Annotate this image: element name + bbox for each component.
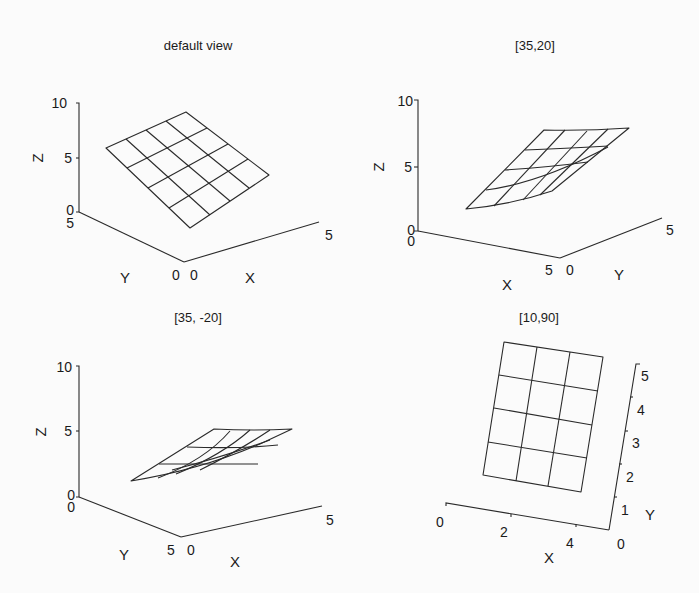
y-tick-label: 0 [172,267,180,283]
z-tick-label: 5 [64,423,72,439]
subplot-35-20: [35,20] 10 5 0 0 5 0 5 X Y Z [370,38,674,293]
x-tick-label: 4 [566,535,574,551]
z-tick-label: 10 [397,93,413,109]
x-tick-label: 0 [407,233,415,249]
y-tick-label: 5 [167,542,175,558]
z-axis-label: Z [32,427,49,436]
x-axis [184,222,319,262]
y-axis-label: Y [614,266,624,283]
x-tick-label: 2 [500,524,508,540]
subplot-title: [35,20] [515,38,555,53]
x-axis [181,506,322,537]
x-tick-label: 0 [190,267,198,283]
y-tick-label: 4 [637,402,645,418]
subplot-default-view: default view 10 5 0 5 0 0 5 Y X Z [29,38,333,286]
x-axis [418,231,560,258]
y-axis [79,497,181,537]
x-axis-label: X [230,553,240,570]
z-tick-label: 10 [56,359,72,375]
x-tick-label: 5 [545,262,553,278]
y-tick-label: 3 [632,435,640,451]
y-tick-label: 2 [626,469,634,485]
subplot-title: [10,90] [519,310,559,325]
subplot-title: [35, -20] [174,310,222,325]
y-tick-label: 5 [641,368,649,384]
y-tick-label: 0 [566,262,574,278]
z-axis [414,100,418,231]
z-axis-label: Z [370,162,387,171]
surface-mesh [466,128,629,209]
surface-mesh [483,342,603,492]
z-axis-label: Z [29,153,46,162]
x-tick-label: 5 [326,512,334,528]
x-axis-label: X [502,276,512,293]
subplot-35-neg20: [35, -20] 10 5 0 0 5 0 5 Y X Z [32,310,334,570]
figure-canvas: default view 10 5 0 5 0 0 5 Y X Z [0,0,699,593]
z-tick-label: 5 [404,159,412,175]
subplot-title: default view [164,38,233,53]
surface-mesh [106,112,269,228]
y-tick-label: 0 [67,499,75,515]
x-tick-label: 5 [325,227,333,243]
x-tick-label: 0 [436,514,444,530]
y-tick-label: 5 [666,222,674,238]
y-tick-label: 0 [617,536,625,552]
y-axis-label: Y [120,269,130,286]
z-tick-label: 10 [51,95,67,111]
x-axis-label: X [245,269,255,286]
y-axis-label: Y [645,506,655,523]
y-axis [79,212,184,262]
surface-mesh [131,429,292,481]
z-tick-label: 5 [64,150,72,166]
x-axis [446,503,609,530]
x-axis-label: X [544,549,554,566]
y-tick-label: 5 [66,215,74,231]
x-tick-label: 0 [187,542,195,558]
y-axis [560,218,662,258]
y-axis-label: Y [119,546,129,563]
y-tick-label: 1 [621,502,629,518]
subplot-10-90: [10,90] 0 2 4 X 0 1 2 3 4 5 Y [436,310,655,566]
